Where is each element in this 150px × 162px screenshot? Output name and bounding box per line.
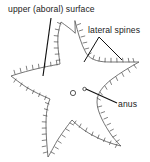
anus-leader <box>86 89 117 103</box>
starfish-body <box>11 21 139 157</box>
spine-ticks-lower-right-outer <box>98 106 119 142</box>
starfish-diagram: upper (aboral) surface lateral spines an… <box>0 0 150 162</box>
label-lateral-spines: lateral spines <box>88 25 140 35</box>
diagram-canvas: upper (aboral) surface lateral spines an… <box>0 0 150 162</box>
label-upper-aboral-surface: upper (aboral) surface <box>8 4 95 14</box>
spine-ticks-upper-notch <box>93 55 134 62</box>
anus-circle <box>83 87 86 90</box>
spine-ticks-right-arm <box>97 65 136 100</box>
spine-ticks-lower-left-outer <box>51 123 73 154</box>
madreporite-circle <box>70 90 75 95</box>
spine-ticks-left-arm-upper <box>14 61 57 74</box>
upper-aboral-surface-leader <box>43 18 51 76</box>
starfish-outline <box>11 21 139 157</box>
spine-ticks-lower-left-inner <box>42 103 49 153</box>
label-anus: anus <box>118 99 137 109</box>
lateral-spines-pointer <box>84 37 122 62</box>
